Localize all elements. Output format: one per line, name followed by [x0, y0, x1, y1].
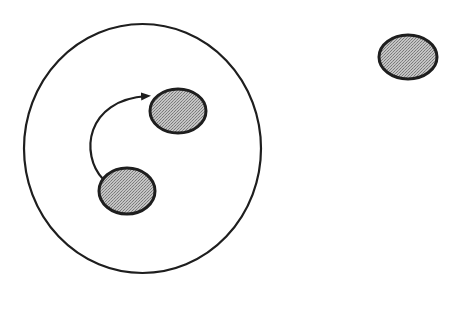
container-circle — [24, 24, 261, 273]
outside-right-ellipse — [379, 35, 437, 79]
inner-lower-ellipse — [99, 168, 155, 214]
inner-upper-ellipse — [150, 89, 206, 133]
diagram-canvas — [0, 0, 463, 312]
transition-arrow — [90, 96, 147, 179]
